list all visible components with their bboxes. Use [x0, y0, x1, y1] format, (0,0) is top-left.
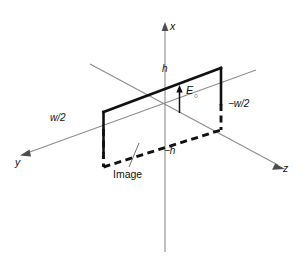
height-bottom-label: −h: [164, 146, 175, 156]
height-top-label: h: [162, 64, 168, 74]
image-rectangle: [104, 104, 222, 167]
field-symbol: E: [186, 84, 193, 96]
field-label: E○: [186, 85, 198, 98]
axis-x-label: x: [170, 21, 175, 32]
axis-z-line: [90, 64, 278, 165]
field-subscript: ○: [194, 92, 198, 99]
width-positive-label: w/2: [50, 113, 66, 123]
axis-group: [20, 22, 285, 252]
axis-z-label: z: [283, 163, 288, 174]
aperture-top-edge: [104, 68, 222, 112]
figure-canvas: x y z h −h w/2 −w/2 E○ Image: [0, 0, 308, 267]
width-negative-label: −w/2: [228, 99, 249, 109]
diagram-svg: [0, 0, 308, 267]
field-arrow-head: [176, 85, 182, 93]
image-bottom-edge: [104, 130, 222, 167]
axis-y-label: y: [15, 157, 20, 168]
axis-y-arrowhead: [20, 150, 31, 157]
axis-x-arrowhead: [162, 22, 169, 31]
image-caption-label: Image: [113, 169, 142, 180]
